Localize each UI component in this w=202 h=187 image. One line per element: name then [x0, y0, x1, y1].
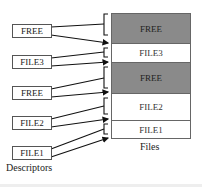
file-segment-file2: FILE2 — [111, 93, 191, 121]
segment-label: FREE — [140, 24, 162, 34]
segment-label: FILE2 — [139, 102, 163, 112]
descriptors-label: Descriptors — [6, 162, 52, 173]
files-label: Files — [140, 141, 159, 152]
segment-label: FREE — [140, 73, 162, 83]
descriptor-file2: FILE2 — [12, 116, 52, 130]
file-segment-file1: FILE1 — [111, 120, 191, 139]
descriptor-file1: FILE1 — [12, 146, 52, 160]
file-segment-free-mid: FREE — [111, 62, 191, 94]
bracket-free-mid — [104, 67, 108, 88]
bracket-file1 — [104, 124, 108, 134]
descriptor-file3: FILE3 — [12, 55, 52, 69]
segment-label: FILE3 — [139, 48, 163, 58]
descriptor-free-mid: FREE — [12, 86, 52, 100]
descriptor-free-top: FREE — [12, 24, 52, 38]
file-segment-file3: FILE3 — [111, 43, 191, 63]
bottom-divider — [0, 184, 202, 187]
file-segment-free-top: FREE — [111, 13, 191, 44]
bracket-file3 — [104, 48, 108, 57]
segment-label: FILE1 — [139, 125, 163, 135]
bracket-free-top — [104, 14, 108, 35]
bracket-file2 — [104, 98, 108, 114]
